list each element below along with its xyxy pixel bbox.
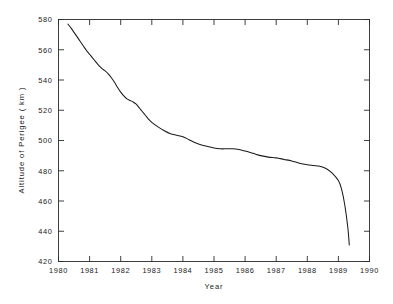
- x-tick-label: 1987: [267, 266, 286, 275]
- line-chart: 1980198119821983198419851986198719881989…: [0, 0, 393, 304]
- y-tick-label: 580: [38, 15, 52, 24]
- x-tick-label: 1986: [236, 266, 255, 275]
- x-tick-label: 1981: [80, 266, 99, 275]
- y-axis-tick-labels: 420440460480500520540560580: [38, 15, 52, 266]
- x-tick-label: 1980: [49, 266, 68, 275]
- x-tick-label: 1985: [205, 266, 224, 275]
- y-tick-label: 500: [38, 136, 52, 145]
- x-tick-label: 1982: [111, 266, 130, 275]
- x-tick-label: 1990: [360, 266, 379, 275]
- y-tick-label: 540: [38, 76, 52, 85]
- y-tick-label: 440: [38, 227, 52, 236]
- x-axis-tick-labels: 1980198119821983198419851986198719881989…: [49, 266, 379, 275]
- x-tick-label: 1989: [329, 266, 348, 275]
- x-axis-ticks-top: [59, 20, 370, 26]
- y-axis-ticks-left: [59, 20, 65, 262]
- x-tick-label: 1983: [142, 266, 161, 275]
- x-tick-label: 1988: [298, 266, 317, 275]
- x-axis-title: Year: [205, 282, 224, 291]
- y-tick-label: 460: [38, 197, 52, 206]
- figure-container: 1980198119821983198419851986198719881989…: [0, 0, 393, 304]
- y-tick-label: 560: [38, 46, 52, 55]
- y-tick-label: 520: [38, 106, 52, 115]
- plot-frame: [59, 20, 370, 262]
- x-tick-label: 1984: [173, 266, 192, 275]
- data-series-line: [68, 24, 349, 245]
- y-tick-label: 420: [38, 257, 52, 266]
- y-axis-ticks-right: [364, 20, 370, 262]
- y-tick-label: 480: [38, 167, 52, 176]
- y-axis-title: Altitude of Perigee ( km ): [17, 87, 26, 194]
- x-axis-ticks-bottom: [59, 256, 370, 262]
